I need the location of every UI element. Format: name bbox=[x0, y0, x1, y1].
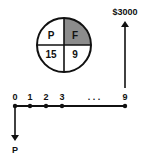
cash-flow-diagram: P F 15 9 0 1 2 3 . . . 9 $3000 P bbox=[0, 0, 149, 165]
quadrant-f: F bbox=[72, 30, 78, 41]
factor-pie: P F 15 9 bbox=[37, 18, 91, 72]
period-label-9: 9 bbox=[122, 92, 127, 102]
quadrant-p: P bbox=[48, 30, 55, 41]
period-label-3: 3 bbox=[59, 92, 64, 102]
period-label-2: 2 bbox=[43, 92, 48, 102]
timeline: 0 1 2 3 . . . 9 bbox=[12, 92, 127, 108]
period-label-0: 0 bbox=[12, 92, 17, 102]
outflow-label: P bbox=[12, 145, 18, 155]
period-label-1: 1 bbox=[27, 92, 32, 102]
inflow-label: $3000 bbox=[112, 7, 137, 17]
period-ellipsis: . . . bbox=[88, 92, 101, 102]
quadrant-n-periods: 9 bbox=[72, 49, 78, 60]
quadrant-n-rate: 15 bbox=[45, 49, 57, 60]
